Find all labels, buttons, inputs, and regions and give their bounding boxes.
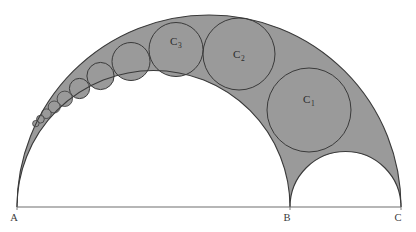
circle-label-base-c2: C (233, 48, 240, 60)
circle-label-base-c1: C (303, 93, 310, 105)
circle-label-base-c3: C (170, 35, 177, 47)
arbelos-figure: ABC C1C2C3 (0, 0, 416, 232)
pappus-circle-c3 (149, 23, 203, 77)
circle-label-sub-c1: 1 (311, 99, 315, 108)
pappus-circle-c1 (267, 68, 351, 152)
arbelos-diagram: ABC C1C2C3 (0, 0, 416, 232)
circle-label-sub-c3: 3 (178, 41, 182, 50)
point-label-a: A (10, 212, 18, 223)
point-label-c: C (394, 212, 401, 223)
point-label-b: B (283, 212, 290, 223)
circle-label-sub-c2: 2 (241, 54, 245, 63)
